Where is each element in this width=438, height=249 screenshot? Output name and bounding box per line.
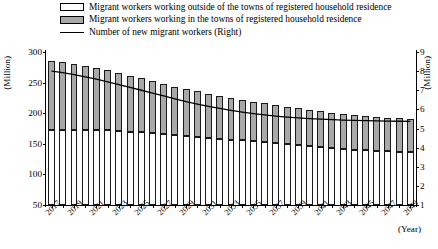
x-tick-mark xyxy=(175,205,176,208)
x-axis-caption: (Year) xyxy=(398,224,421,234)
x-tick-mark xyxy=(197,205,198,208)
x-tick-mark xyxy=(85,205,86,208)
left-axis-caption: (Million) xyxy=(2,56,12,90)
right-tick-mark xyxy=(416,167,419,168)
right-tick-mark xyxy=(416,129,419,130)
x-tick-mark xyxy=(354,205,355,208)
legend-label-outside-towns: Migrant workers working outside of the t… xyxy=(89,3,392,12)
legend-item-new-migrant-workers: Number of new migrant workers (Right) xyxy=(60,26,438,39)
legend-swatch-black-line xyxy=(60,28,84,36)
legend-swatch-gray-square xyxy=(60,16,84,24)
x-tick-mark xyxy=(309,205,310,208)
x-tick-mark xyxy=(377,205,378,208)
x-tick-mark xyxy=(130,205,131,208)
plot-area: 50100150200250300 123456789 201720192021… xyxy=(46,52,416,205)
right-tick-mark xyxy=(416,186,419,187)
right-tick-mark xyxy=(416,71,419,72)
x-tick-mark xyxy=(399,205,400,208)
legend-label-new-migrant-workers: Number of new migrant workers (Right) xyxy=(89,28,241,37)
line-path-new-migrant-workers xyxy=(52,71,411,121)
right-tick-mark xyxy=(416,52,419,53)
right-tick-mark xyxy=(416,148,419,149)
x-tick-mark xyxy=(220,205,221,208)
legend-swatch-white-square xyxy=(60,3,84,11)
right-tick-mark xyxy=(416,90,419,91)
line-series-new-migrant-workers xyxy=(46,52,416,205)
legend-item-outside-towns: Migrant workers working outside of the t… xyxy=(60,1,438,14)
chart-figure: Migrant workers working outside of the t… xyxy=(0,0,438,249)
right-tick-mark xyxy=(416,109,419,110)
x-tick-mark xyxy=(287,205,288,208)
x-tick-mark xyxy=(242,205,243,208)
chart-legend: Migrant workers working outside of the t… xyxy=(60,1,438,39)
x-tick-mark xyxy=(332,205,333,208)
legend-item-in-towns: Migrant workers working in the towns of … xyxy=(60,14,438,27)
x-tick-mark xyxy=(108,205,109,208)
x-tick-mark xyxy=(153,205,154,208)
x-tick-mark xyxy=(63,205,64,208)
x-tick-mark xyxy=(265,205,266,208)
legend-label-in-towns: Migrant workers working in the towns of … xyxy=(89,15,362,24)
